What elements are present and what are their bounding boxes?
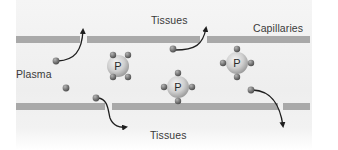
exit-arrow-bottom-left xyxy=(98,98,126,127)
small-molecule xyxy=(53,58,60,65)
small-molecule xyxy=(248,87,255,94)
small-molecule xyxy=(170,46,177,53)
protein-label: P xyxy=(114,60,121,72)
tissues-top-label: Tissues xyxy=(151,14,188,26)
protein-label: P xyxy=(233,57,240,69)
small-molecule xyxy=(93,95,100,102)
small-molecules xyxy=(53,46,255,102)
small-molecule xyxy=(63,85,70,92)
tissues-bottom-label: Tissues xyxy=(150,129,187,141)
capillaries-label: Capillaries xyxy=(253,22,303,34)
bottom-capillary-wall xyxy=(16,103,310,110)
top-capillary-wall xyxy=(16,36,310,43)
exit-arrow-top-left xyxy=(58,30,83,61)
protein-label: P xyxy=(174,81,181,93)
capillary-diagram: P P P Tissues Capillaries Plasma Tissues xyxy=(0,0,338,150)
plasma-label: Plasma xyxy=(16,68,52,80)
